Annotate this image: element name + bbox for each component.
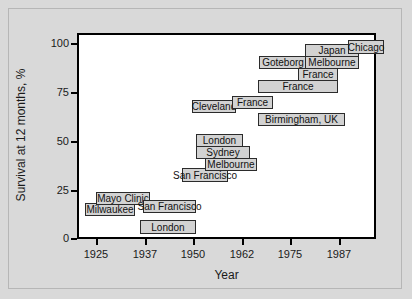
x-axis-label: Year	[77, 268, 376, 282]
x-tick-mark-1950	[193, 239, 195, 245]
figure-root: Survival at 12 months, % 100 75 50 25 0 …	[0, 0, 412, 299]
study-box-sydney[interactable]: Sydney	[196, 146, 250, 159]
x-tick-label-1937: 1937	[120, 249, 170, 260]
x-tick-mark-1987	[339, 239, 341, 245]
study-box-france-3[interactable]: France	[298, 68, 338, 81]
study-box-birmingham-uk[interactable]: Birmingham, UK	[258, 113, 345, 126]
x-tick-label-1975: 1975	[265, 249, 315, 260]
study-box-cleveland[interactable]: Cleveland	[192, 100, 236, 113]
study-box-france-2[interactable]: France	[258, 80, 338, 93]
x-tick-mark-1937	[145, 239, 147, 245]
study-box-london-2[interactable]: London	[196, 134, 243, 147]
x-tick-mark-1975	[290, 239, 292, 245]
x-tick-label-1962: 1962	[217, 249, 267, 260]
x-tick-mark-1925	[96, 239, 98, 245]
x-tick-label-1987: 1987	[314, 249, 364, 260]
x-tick-label-1950: 1950	[168, 249, 218, 260]
x-tick-label-1925: 1925	[71, 249, 121, 260]
study-box-goteborg[interactable]: Goteborg	[259, 56, 307, 69]
study-box-melbourne-2[interactable]: Melbourne	[305, 56, 359, 69]
study-box-melbourne-1[interactable]: Melbourne	[205, 158, 257, 171]
study-box-london-1[interactable]: London	[140, 220, 196, 234]
study-box-france-1[interactable]: France	[232, 96, 273, 109]
study-box-chicago[interactable]: Chicago	[348, 40, 384, 54]
study-box-san-francisco-1[interactable]: San Francisco	[143, 200, 196, 213]
x-tick-mark-1962	[242, 239, 244, 245]
